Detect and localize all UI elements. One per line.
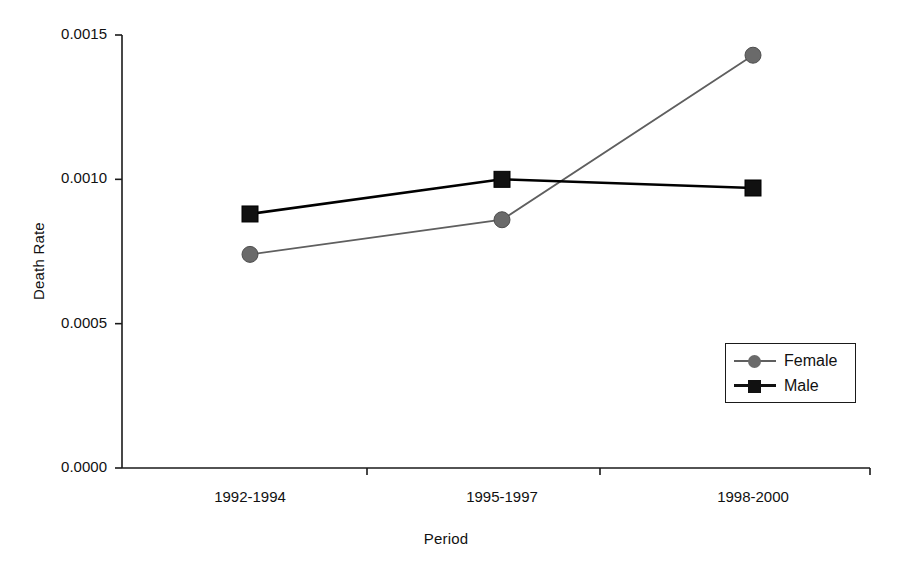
x-axis-tick-label: 1998-2000 [673, 488, 833, 505]
y-axis-tick-label: 0.0005 [37, 314, 107, 331]
legend-label-male: Male [784, 377, 819, 395]
data-point-male-1[interactable] [494, 171, 510, 187]
x-axis-ticks [367, 468, 870, 475]
y-axis-tick-label: 0.0010 [37, 169, 107, 186]
y-axis-ticks [115, 35, 122, 468]
y-axis-tick-label: 0.0015 [37, 25, 107, 42]
legend: Female Male [725, 343, 856, 403]
x-axis-title: Period [386, 530, 506, 547]
data-point-male-0[interactable] [242, 206, 258, 222]
y-axis-tick-label: 0.0000 [37, 458, 107, 475]
x-axis-tick-label: 1992-1994 [170, 488, 330, 505]
y-axis-title: Death Rate [30, 222, 47, 300]
series-markers [242, 47, 761, 262]
data-point-female-2[interactable] [745, 47, 761, 63]
line-chart: Death Rate 0.00000.00050.00100.0015 1992… [0, 0, 897, 574]
legend-item-male[interactable]: Male [734, 375, 819, 397]
data-point-male-2[interactable] [745, 180, 761, 196]
x-axis-tick-label: 1995-1997 [422, 488, 582, 505]
data-point-female-0[interactable] [242, 246, 258, 262]
legend-label-female: Female [784, 352, 837, 370]
data-point-female-1[interactable] [494, 212, 510, 228]
circle-marker-icon [734, 352, 776, 370]
legend-item-female[interactable]: Female [734, 350, 837, 372]
square-marker-icon [734, 377, 776, 395]
